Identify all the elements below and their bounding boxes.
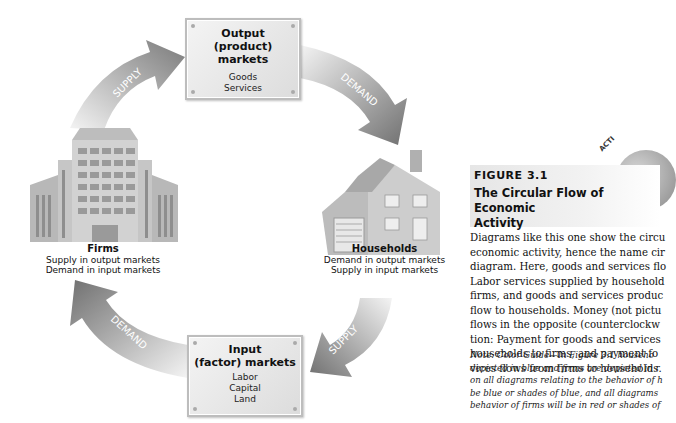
- rivet-icon: [293, 341, 297, 345]
- note-line: be blue or shades of blue, and all diagr…: [470, 387, 670, 400]
- firms-name: Firms: [28, 243, 178, 255]
- input-market-subtitle: (factor) markets: [189, 356, 301, 369]
- output-market-subtitle: (product) markets: [187, 40, 299, 66]
- input-market-title: Input: [189, 343, 301, 356]
- figure-title-line-2: Activity: [474, 216, 649, 231]
- rivet-icon: [291, 90, 295, 94]
- note-line: Note: Color Guide—In Figure 3.1 househo: [470, 349, 670, 362]
- households-house-icon: [322, 150, 440, 255]
- output-market-title: Output: [187, 27, 299, 40]
- firms-desc-2: Demand in input markets: [28, 265, 178, 275]
- output-item-goods: Goods: [187, 72, 299, 83]
- households-desc-1: Demand in output markets: [322, 255, 447, 265]
- body-line: Diagrams like this one show the circu: [470, 231, 670, 246]
- figure-number: FIGURE 3.1: [474, 169, 548, 182]
- note-line: behavior of firms will be in red or shad…: [470, 399, 670, 412]
- rivet-icon: [291, 24, 295, 28]
- input-item-capital: Capital: [189, 383, 301, 394]
- households-desc-2: Supply in input markets: [322, 265, 447, 275]
- figure-title-line-1: The Circular Flow of Economic: [474, 186, 649, 216]
- rivet-icon: [293, 407, 297, 411]
- note-line: on all diagrams relating to the behavior…: [470, 374, 670, 387]
- body-line: firms, and goods and services produc: [470, 289, 670, 304]
- input-market-box: Input (factor) markets Labor Capital Lan…: [187, 335, 303, 417]
- body-line: economic activity, hence the name cir: [470, 246, 670, 261]
- households-name: Households: [322, 243, 447, 255]
- figure-title: The Circular Flow of Economic Activity: [474, 186, 649, 231]
- body-line: diagram. Here, goods and services flo: [470, 260, 670, 275]
- firms-desc-1: Supply in output markets: [28, 255, 178, 265]
- rivet-icon: [193, 341, 197, 345]
- body-line: Labor services supplied by household: [470, 275, 670, 290]
- note-line: depicted in blue and firms are depicted …: [470, 362, 670, 375]
- caption-note: Note: Color Guide—In Figure 3.1 househo …: [470, 349, 670, 412]
- input-item-land: Land: [189, 394, 301, 405]
- body-line: flows in the opposite (counterclockw: [470, 318, 670, 333]
- rivet-icon: [193, 407, 197, 411]
- firms-building-icon: [30, 128, 178, 242]
- output-item-services: Services: [187, 83, 299, 94]
- rivet-icon: [191, 90, 195, 94]
- body-line: tion: Payment for goods and services: [470, 333, 670, 348]
- output-market-box: Output (product) markets Goods Services: [185, 18, 301, 100]
- rivet-icon: [191, 24, 195, 28]
- input-item-labor: Labor: [189, 372, 301, 383]
- firms-label: Firms Supply in output markets Demand in…: [28, 243, 178, 275]
- households-label: Households Demand in output markets Supp…: [322, 243, 447, 275]
- body-line: flow to households. Money (not pictu: [470, 304, 670, 319]
- demand-arrow-top-right: [300, 45, 407, 145]
